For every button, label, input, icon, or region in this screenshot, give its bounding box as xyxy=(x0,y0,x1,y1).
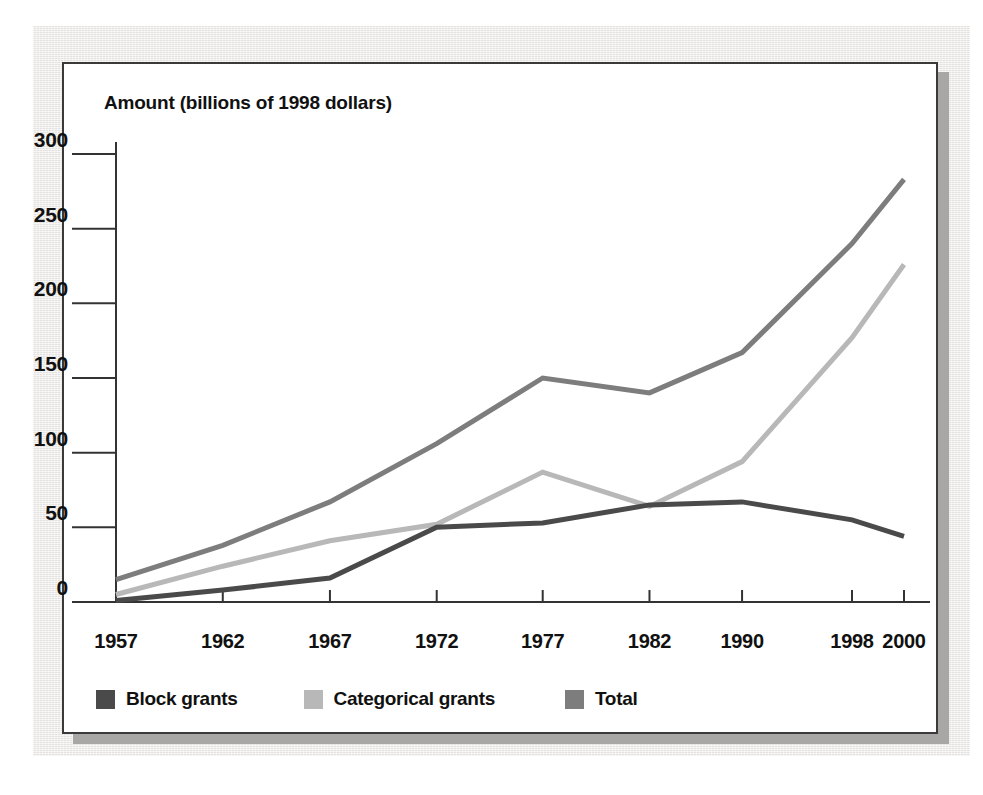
x-tick-label: 1957 xyxy=(76,630,156,653)
chart-legend: Block grantsCategorical grantsTotal xyxy=(96,688,637,710)
y-tick-label: 50 xyxy=(8,501,68,525)
y-tick-label: 200 xyxy=(8,277,68,301)
legend-label: Block grants xyxy=(126,688,238,710)
legend-label: Total xyxy=(595,688,637,710)
y-tick-label: 100 xyxy=(8,427,68,451)
x-tick-label: 1967 xyxy=(290,630,370,653)
legend-swatch-icon xyxy=(96,690,115,709)
legend-swatch-icon xyxy=(565,690,584,709)
legend-swatch-icon xyxy=(304,690,323,709)
legend-label: Categorical grants xyxy=(334,688,495,710)
x-tick-label: 1990 xyxy=(702,630,782,653)
legend-item-categorical-grants[interactable]: Categorical grants xyxy=(304,688,495,710)
y-tick-label: 300 xyxy=(8,128,68,152)
series-line-block-grants xyxy=(116,502,904,601)
y-tick-label: 250 xyxy=(8,203,68,227)
y-tick-label: 150 xyxy=(8,352,68,376)
x-tick-label: 1982 xyxy=(609,630,689,653)
series-line-categorical-grants xyxy=(116,265,904,595)
legend-item-total[interactable]: Total xyxy=(565,688,637,710)
legend-item-block-grants[interactable]: Block grants xyxy=(96,688,238,710)
x-tick-label: 1972 xyxy=(397,630,477,653)
series-line-total xyxy=(116,179,904,579)
x-tick-label: 2000 xyxy=(864,630,944,653)
y-tick-label: 0 xyxy=(8,576,68,600)
x-tick-label: 1977 xyxy=(503,630,583,653)
chart-figure: Amount (billions of 1998 dollars) 050100… xyxy=(0,0,983,795)
chart-panel: Amount (billions of 1998 dollars) 050100… xyxy=(62,62,938,734)
x-tick-label: 1962 xyxy=(183,630,263,653)
